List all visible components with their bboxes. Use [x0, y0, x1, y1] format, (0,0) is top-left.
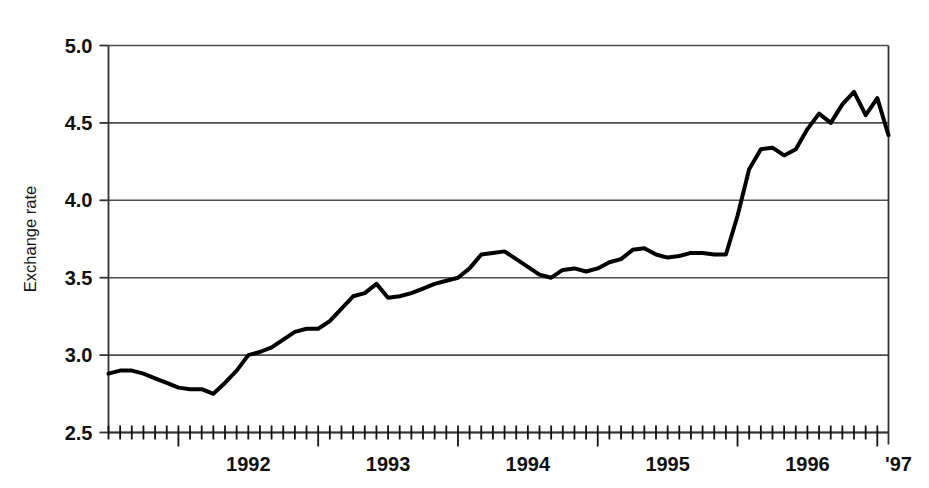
xtick-label: 1995 — [645, 453, 690, 475]
ytick-label: 3.5 — [65, 267, 93, 289]
xtick-label: 1996 — [785, 453, 830, 475]
y-axis-title: Exchange rate — [21, 186, 39, 292]
ytick-label: 5.0 — [65, 35, 93, 57]
chart-canvas: 5.04.54.03.53.02.519921993199419951996'9… — [0, 0, 929, 488]
ytick-label: 3.0 — [65, 344, 93, 366]
xtick-label: 1993 — [366, 453, 411, 475]
exchange-rate-chart: 5.04.54.03.53.02.519921993199419951996'9… — [0, 0, 929, 488]
data-series-line — [109, 92, 889, 394]
xtick-label: '97 — [885, 453, 912, 475]
xtick-label: 1994 — [506, 453, 551, 475]
xtick-label: 1992 — [226, 453, 271, 475]
ytick-label: 4.5 — [65, 112, 93, 134]
ytick-label: 4.0 — [65, 189, 93, 211]
ytick-label: 2.5 — [65, 422, 93, 444]
